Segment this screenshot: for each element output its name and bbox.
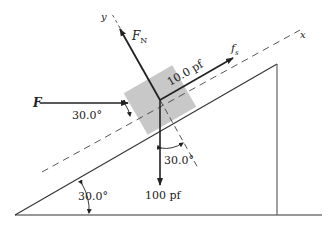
x-axis-dashed	[42, 30, 300, 172]
friction-force-label: fs	[230, 42, 239, 57]
free-body-diagram: y x FN fs 10.0 pf F 30.0° 30.0° 100 pf 3…	[0, 0, 334, 228]
weight-angle-label: 30.0°	[164, 154, 194, 167]
applied-angle-arc	[125, 104, 130, 116]
friction-value-label: 10.0 pf	[165, 57, 206, 88]
y-axis-dashed	[112, 14, 120, 28]
x-axis-label: x	[300, 29, 306, 40]
applied-angle-label: 30.0°	[72, 109, 102, 122]
incline-angle-label: 30.0°	[78, 190, 108, 203]
applied-force-label: F	[32, 96, 43, 110]
y-axis-label: y	[100, 11, 107, 22]
weight-value-label: 100 pf	[145, 189, 182, 202]
normal-force-label: FN	[131, 29, 147, 45]
weight-angle-arc	[161, 143, 183, 148]
